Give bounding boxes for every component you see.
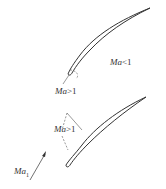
label-subsonic-top: Ma<1 [110, 58, 132, 67]
top-blade [68, 8, 150, 75]
label-supersonic-top: Ma>1 [55, 87, 77, 96]
arrow-head-icon [42, 151, 46, 157]
inflow-arrow [30, 154, 45, 180]
bottom-blade [66, 97, 146, 167]
label-supersonic-bottom: Ma>1 [54, 125, 76, 134]
top-leader-line [63, 75, 69, 84]
shock-line-3 [62, 136, 68, 150]
label-inflow-mach: Ma1 [14, 167, 29, 178]
cascade-diagram [0, 0, 166, 189]
